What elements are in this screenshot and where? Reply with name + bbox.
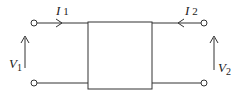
v1-label: V1	[9, 56, 22, 73]
port2-bottom-terminal	[201, 80, 207, 86]
port1-bottom-terminal	[31, 80, 37, 86]
two-port-diagram: I1 I2 V1 V2	[0, 0, 240, 98]
i1-label: I1	[55, 3, 69, 18]
network-box	[88, 22, 152, 89]
port1-top-terminal	[31, 20, 37, 26]
v2-label: V2	[218, 60, 231, 77]
port2-top-terminal	[201, 20, 207, 26]
i2-label: I2	[184, 3, 198, 18]
